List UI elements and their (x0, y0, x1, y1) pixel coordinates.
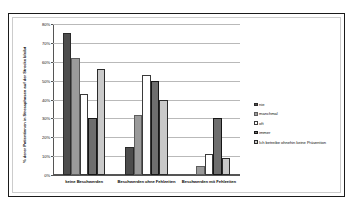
bar-group: Beschwerden mit Fehlzeiten (178, 24, 240, 175)
y-axis-tick-label: 30% (42, 116, 50, 121)
y-axis-tick-mark (51, 175, 53, 176)
legend-item: manchmal (254, 111, 346, 116)
bar (134, 115, 143, 175)
legend-item-label: manchmal (259, 111, 277, 116)
legend-swatch-icon (254, 103, 258, 107)
x-axis-category-label: Beschwerden mit Fehlzeiten (178, 179, 240, 184)
bar (80, 94, 89, 175)
bar-group: Beschwerden ohne Fehlzeiten (115, 24, 177, 175)
bar-group-bars (53, 24, 115, 175)
legend-item-label: immer (259, 130, 270, 135)
y-axis-title: % derer Patientinnen in Stressphasen auf… (22, 47, 27, 163)
legend-item: immer (254, 130, 346, 135)
bar-group-bars (178, 24, 240, 175)
bar-group-bars (115, 24, 177, 175)
chart-outer-frame: % derer Patientinnen in Stressphasen auf… (8, 13, 345, 197)
bar-group: keine Beschwerden (53, 24, 115, 175)
bar (97, 69, 106, 175)
legend-item: Ich betreibe ohnehin keine Prävention (254, 140, 346, 145)
bar (222, 158, 231, 175)
bar (205, 154, 214, 175)
legend-item-label: Ich betreibe ohnehin keine Prävention (259, 140, 326, 145)
y-axis-tick-label: 50% (42, 78, 50, 83)
bar (159, 100, 168, 176)
y-axis-tick-label: 0% (44, 173, 50, 178)
legend-item-label: nie (259, 102, 264, 107)
bar (151, 81, 160, 175)
y-axis-tick-label: 60% (42, 59, 50, 64)
bar (125, 147, 134, 175)
plot-area: 0%10%20%30%40%50%60%70%80% keine Beschwe… (53, 24, 240, 175)
y-axis-tick-label: 10% (42, 154, 50, 159)
legend-item: oft (254, 121, 346, 126)
legend-swatch-icon (254, 112, 258, 116)
x-axis-category-label: Beschwerden ohne Fehlzeiten (115, 179, 177, 184)
chart-legend: niemanchmaloftimmerIch betreibe ohnehin … (254, 102, 346, 149)
y-axis-tick-label: 80% (42, 22, 50, 27)
bar (71, 58, 80, 175)
legend-item-label: oft (259, 121, 263, 126)
y-axis-tick-label: 70% (42, 40, 50, 45)
legend-swatch-icon (254, 121, 258, 125)
legend-swatch-icon (254, 131, 258, 135)
y-axis-tick-label: 20% (42, 135, 50, 140)
gridline (53, 175, 240, 176)
bar (142, 75, 151, 175)
bar (213, 118, 222, 175)
legend-item: nie (254, 102, 346, 107)
bar (196, 166, 205, 175)
bar (88, 118, 97, 175)
bar (63, 33, 72, 175)
y-axis-tick-label: 40% (42, 97, 50, 102)
x-axis-category-label: keine Beschwerden (53, 179, 115, 184)
legend-swatch-icon (254, 140, 258, 144)
